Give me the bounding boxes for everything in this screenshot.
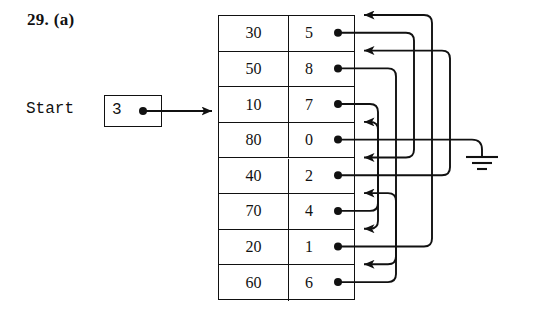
figure-canvas: 29. (a) Start 3 30 5 50 8 10 7 80 0 40 2… bbox=[0, 0, 547, 333]
cell-data: 10 bbox=[219, 87, 289, 122]
table-row: 70 4 bbox=[219, 194, 354, 230]
cell-link: 8 bbox=[289, 52, 353, 87]
cell-data: 30 bbox=[219, 16, 289, 51]
cell-link: 1 bbox=[289, 230, 353, 265]
cell-link: 4 bbox=[289, 194, 353, 229]
cell-link: 7 bbox=[289, 87, 353, 122]
cell-data: 40 bbox=[219, 159, 289, 194]
cell-data: 50 bbox=[219, 52, 289, 87]
node-table: 30 5 50 8 10 7 80 0 40 2 70 4 20 1 60 6 bbox=[218, 15, 355, 300]
cell-data: 70 bbox=[219, 194, 289, 229]
table-row: 20 1 bbox=[219, 230, 354, 266]
table-row: 60 6 bbox=[219, 265, 354, 301]
start-label: Start bbox=[26, 100, 74, 118]
figure-label: 29. (a) bbox=[27, 10, 74, 30]
cell-data: 20 bbox=[219, 230, 289, 265]
table-row: 50 8 bbox=[219, 52, 354, 88]
cell-data: 80 bbox=[219, 123, 289, 158]
ground-symbol bbox=[466, 157, 498, 169]
table-row: 30 5 bbox=[219, 16, 354, 52]
wire-row4-to-ground bbox=[338, 140, 482, 156]
table-row: 80 0 bbox=[219, 123, 354, 159]
cell-link: 5 bbox=[289, 16, 353, 51]
cell-link: 6 bbox=[289, 265, 353, 301]
start-pointer-value: 3 bbox=[112, 101, 122, 119]
cell-link: 2 bbox=[289, 159, 353, 194]
cell-data: 60 bbox=[219, 265, 289, 301]
table-row: 10 7 bbox=[219, 87, 354, 123]
cell-link: 0 bbox=[289, 123, 353, 158]
table-row: 40 2 bbox=[219, 159, 354, 195]
